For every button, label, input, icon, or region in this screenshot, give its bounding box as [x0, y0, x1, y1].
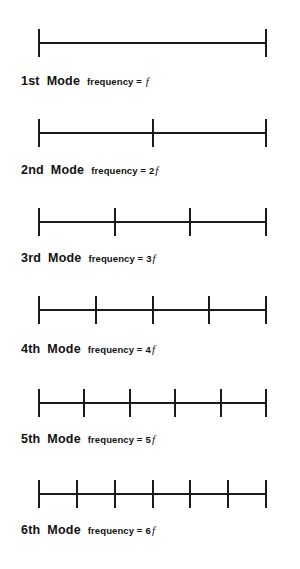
node-tick: [38, 389, 40, 417]
mode-word-label: Mode: [48, 251, 81, 265]
frequency-symbol: f: [152, 343, 155, 355]
frequency-symbol: f: [152, 524, 155, 536]
frequency-label: frequency =: [88, 525, 143, 536]
node-tick: [189, 480, 191, 508]
frequency-label: frequency =: [91, 165, 146, 176]
mode-word-label: Mode: [47, 342, 80, 356]
string-diagram: [0, 207, 300, 237]
node-tick: [114, 480, 116, 508]
mode-caption: 4thModefrequency =4f: [21, 342, 155, 356]
node-tick: [265, 119, 267, 147]
node-tick: [83, 389, 85, 417]
frequency-multiplier: 4: [146, 344, 151, 355]
string-diagram: [0, 388, 300, 418]
mode-word-label: Mode: [47, 523, 80, 537]
frequency-multiplier: 2: [149, 165, 154, 176]
frequency-label: frequency =: [89, 253, 144, 264]
frequency-label: frequency =: [88, 344, 143, 355]
mode-row: [0, 118, 300, 148]
mode-caption: 1stModefrequency =f: [21, 74, 149, 88]
frequency-label: frequency =: [87, 76, 142, 87]
frequency-label: frequency =: [88, 434, 143, 445]
node-tick: [152, 119, 154, 147]
frequency-symbol: f: [152, 433, 155, 445]
node-tick: [189, 208, 191, 236]
mode-ordinal: 5th: [21, 432, 40, 446]
mode-word-label: Mode: [47, 432, 80, 446]
frequency-multiplier: 5: [146, 434, 151, 445]
node-tick: [38, 480, 40, 508]
mode-row: [0, 28, 300, 58]
mode-ordinal: 6th: [21, 523, 40, 537]
frequency-multiplier: 3: [146, 253, 151, 264]
mode-row: [0, 207, 300, 237]
node-tick: [76, 480, 78, 508]
string-line: [39, 221, 266, 223]
mode-ordinal: 3rd: [21, 251, 41, 265]
node-tick: [227, 480, 229, 508]
node-tick: [208, 296, 210, 324]
mode-row: [0, 388, 300, 418]
mode-caption: 3rdModefrequency =3 f: [21, 251, 156, 265]
mode-ordinal: 1st: [21, 74, 40, 88]
node-tick: [114, 208, 116, 236]
node-tick: [265, 389, 267, 417]
mode-row: [0, 479, 300, 509]
node-tick: [265, 296, 267, 324]
node-tick: [152, 296, 154, 324]
mode-ordinal: 4th: [21, 342, 40, 356]
string-line: [39, 402, 266, 404]
node-tick: [38, 208, 40, 236]
node-tick: [152, 480, 154, 508]
mode-ordinal: 2nd: [21, 163, 44, 177]
string-diagram: [0, 28, 300, 58]
node-tick: [38, 119, 40, 147]
frequency-symbol: f: [153, 252, 156, 264]
node-tick: [129, 389, 131, 417]
string-diagram: [0, 479, 300, 509]
vibrating-string-modes-figure: 1stModefrequency =f2ndModefrequency =2f3…: [0, 0, 300, 569]
mode-row: [0, 295, 300, 325]
frequency-multiplier: 6: [146, 525, 151, 536]
node-tick: [38, 296, 40, 324]
node-tick: [38, 29, 40, 57]
mode-caption: 6thModefrequency =6f: [21, 523, 155, 537]
mode-caption: 5thModefrequency =5f: [21, 432, 155, 446]
mode-word-label: Mode: [51, 163, 84, 177]
node-tick: [174, 389, 176, 417]
mode-caption: 2ndModefrequency =2f: [21, 163, 158, 177]
string-diagram: [0, 295, 300, 325]
node-tick: [265, 29, 267, 57]
node-tick: [265, 480, 267, 508]
node-tick: [265, 208, 267, 236]
mode-word-label: Mode: [47, 74, 80, 88]
string-diagram: [0, 118, 300, 148]
node-tick: [220, 389, 222, 417]
node-tick: [95, 296, 97, 324]
frequency-symbol: f: [146, 75, 149, 87]
string-line: [39, 42, 266, 44]
frequency-symbol: f: [155, 164, 158, 176]
